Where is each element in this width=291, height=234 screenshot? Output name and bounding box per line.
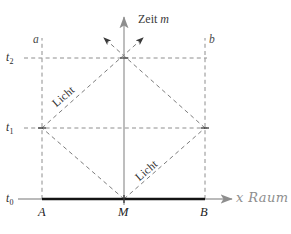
point-label-M: M (118, 206, 128, 219)
space-axis-label: x Raum (236, 191, 288, 204)
time-axis-label: Zeit m (138, 13, 169, 25)
space-axis-label-symbol: Raum (248, 190, 288, 205)
lightray-a-to-apex (42, 38, 143, 128)
point-label-A: A (38, 206, 46, 219)
lightray-m-to-a (42, 128, 124, 199)
point-label-B: B (200, 206, 208, 219)
space-axis-label-text: x (236, 190, 244, 205)
lightray-m-to-b (124, 128, 205, 199)
tick-label-t0: t0 (6, 193, 13, 205)
time-axis-label-symbol: m (160, 12, 169, 26)
spacetime-diagram: Zeit m x Raum t2 t1 t0 a b A M B Licht L… (0, 0, 291, 234)
time-axis-label-text: Zeit (138, 12, 157, 26)
tick-label-t1: t1 (6, 122, 13, 134)
worldline-label-b: b (209, 34, 215, 46)
tick-label-t2: t2 (6, 52, 13, 64)
lightray-b-to-apex (104, 38, 205, 128)
worldline-label-a: a (33, 34, 39, 46)
